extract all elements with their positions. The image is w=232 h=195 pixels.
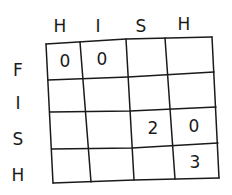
cell-value: 3 [183,154,207,171]
cell-value: 0 [90,51,114,68]
row-label: S [8,131,28,148]
row-label: I [8,95,28,112]
row-label: H [8,167,28,184]
column-label: H [50,18,70,35]
cell-value: 0 [53,53,77,70]
cell-value: 0 [182,118,206,135]
row-label: F [8,62,28,79]
column-label: S [131,18,151,35]
column-label: I [88,18,108,35]
cell-value: 2 [141,120,165,137]
column-label: H [174,16,194,33]
